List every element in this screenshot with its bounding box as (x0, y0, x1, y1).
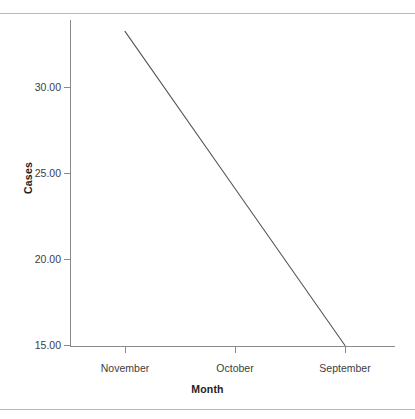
y-tick-label: 25.00 (13, 168, 61, 179)
y-tick-label: 15.00 (13, 340, 61, 351)
chart-screenshot: 30.00 25.00 20.00 15.00 November October… (0, 0, 415, 419)
y-axis-title: Cases (22, 150, 34, 206)
y-tick-label: 20.00 (13, 254, 61, 265)
x-tick-label: September (290, 363, 400, 374)
line-chart-plot: 30.00 25.00 20.00 15.00 November October… (0, 0, 415, 419)
x-axis-title: Month (0, 383, 415, 395)
chart-canvas (0, 0, 415, 419)
data-series-cases (125, 31, 345, 345)
x-tick-label: November (70, 363, 180, 374)
axes-group (70, 20, 395, 347)
x-tick-label: October (180, 363, 290, 374)
y-tick-marks (64, 88, 70, 346)
y-tick-label: 30.00 (13, 82, 61, 93)
series-line-cases (125, 31, 345, 345)
x-tick-marks (126, 346, 346, 353)
